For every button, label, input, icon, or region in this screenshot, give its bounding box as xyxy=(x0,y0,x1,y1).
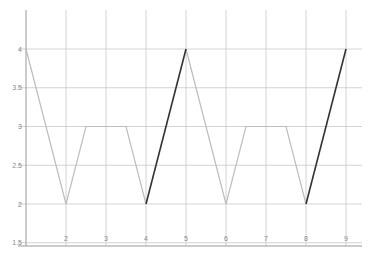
y-tick-label: 3 xyxy=(18,123,22,130)
y-tick-label: 4 xyxy=(18,46,22,53)
x-tick-label: 6 xyxy=(224,235,228,242)
x-tick-label: 5 xyxy=(184,235,188,242)
y-tick-label: 2 xyxy=(18,201,22,208)
y-axis-labels: 43.532.521.5 xyxy=(12,46,22,247)
line-chart: 43.532.521.5 23456789 xyxy=(0,0,371,257)
x-tick-label: 2 xyxy=(64,235,68,242)
x-tick-label: 7 xyxy=(264,235,268,242)
y-tick-label: 3.5 xyxy=(12,84,22,91)
x-tick-label: 4 xyxy=(144,235,148,242)
x-axis-labels: 23456789 xyxy=(64,235,348,242)
x-tick-label: 9 xyxy=(344,235,348,242)
chart-axes xyxy=(18,10,362,246)
x-tick-label: 8 xyxy=(304,235,308,242)
chart-grid xyxy=(18,10,362,246)
y-tick-label: 1.5 xyxy=(12,239,22,246)
x-tick-label: 3 xyxy=(104,235,108,242)
y-tick-label: 2.5 xyxy=(12,162,22,169)
